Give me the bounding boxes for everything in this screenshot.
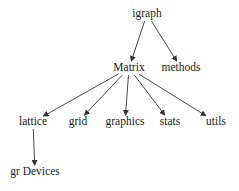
node-igraph: igraph <box>132 8 161 20</box>
node-methods: methods <box>162 62 201 74</box>
edge-Matrix-lattice <box>43 74 118 116</box>
node-grdevices: gr Devices <box>10 166 60 178</box>
edge-Matrix-graphics <box>126 75 129 115</box>
edge-Matrix-grid <box>85 75 123 115</box>
edge-igraph-Matrix <box>131 21 144 61</box>
node-utils: utils <box>206 116 226 128</box>
edge-igraph-methods <box>151 21 176 61</box>
node-grid: grid <box>69 116 88 128</box>
edges-layer <box>0 0 239 191</box>
node-graphics: graphics <box>106 116 145 128</box>
node-stats: stats <box>160 116 180 128</box>
node-lattice: lattice <box>19 116 47 128</box>
edge-lattice-grDevices <box>33 129 34 165</box>
node-matrix: Matrix <box>113 62 144 74</box>
